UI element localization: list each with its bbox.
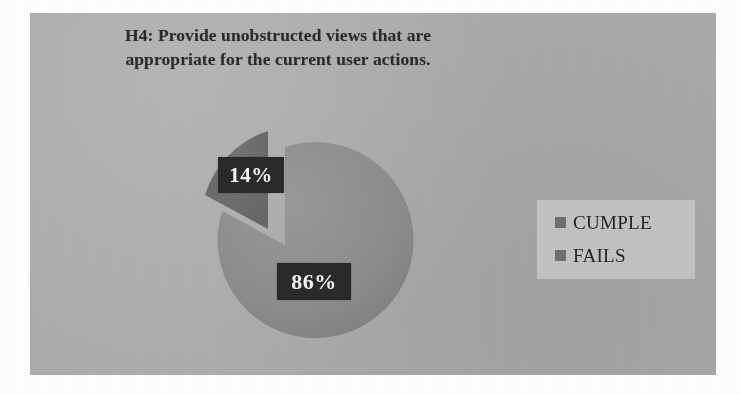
legend-item-fails[interactable]: FAILS	[555, 246, 626, 265]
legend-item-cumple[interactable]: CUMPLE	[555, 213, 652, 232]
chart-title-line-2: appropriate for the current user actions…	[68, 47, 488, 71]
legend-swatch-cumple-icon	[555, 217, 566, 228]
pie-chart-svg	[150, 105, 430, 365]
chart-title-line-1: H4: Provide unobstructed views that are	[68, 23, 488, 47]
chart-page: H4: Provide unobstructed views that are …	[0, 0, 741, 394]
legend-swatch-fails-icon	[555, 250, 566, 261]
chart-title: H4: Provide unobstructed views that are …	[68, 23, 488, 71]
data-label-cumple: 86%	[277, 263, 351, 300]
chart-legend: CUMPLE FAILS	[537, 200, 695, 279]
legend-label-fails: FAILS	[573, 246, 626, 265]
pie-chart	[150, 105, 430, 365]
data-label-fails: 14%	[218, 157, 284, 193]
legend-label-cumple: CUMPLE	[573, 213, 652, 232]
